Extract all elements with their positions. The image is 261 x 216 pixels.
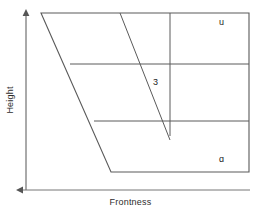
up-arrow-icon — [23, 9, 30, 16]
vowel-quadrilateral-outline — [41, 13, 249, 172]
vowel-label-mid-central: 3 — [153, 77, 158, 87]
chart-canvas — [0, 0, 261, 216]
left-arrow-icon — [16, 187, 23, 194]
y-axis — [23, 9, 30, 190]
y-axis-title: Height — [5, 68, 15, 132]
vowel-label-close-back: u — [219, 17, 224, 27]
x-axis-title: Frontness — [0, 197, 261, 207]
x-axis — [16, 187, 250, 194]
vowel-chart-figure: Frontness Height u ɑ 3 — [0, 0, 261, 216]
vowel-label-open-back: ɑ — [219, 154, 224, 164]
